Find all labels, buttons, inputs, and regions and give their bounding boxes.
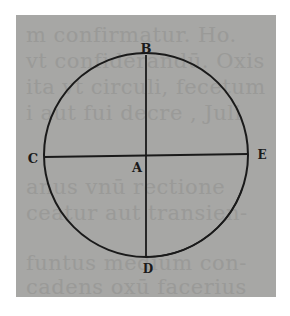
- label-A: A: [131, 160, 143, 175]
- circle-heavy-edge: [146, 189, 242, 257]
- label-C: C: [28, 151, 38, 166]
- label-B: B: [141, 41, 152, 56]
- label-E: E: [257, 148, 266, 162]
- label-D: D: [143, 262, 153, 276]
- circle-diagram: B C A E D: [0, 0, 290, 316]
